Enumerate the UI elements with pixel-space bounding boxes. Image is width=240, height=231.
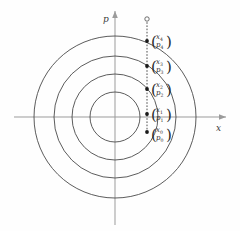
label-p2: p2 — [156, 89, 163, 98]
paren-right-p0: ) — [166, 126, 172, 144]
sample-point-p4 — [145, 39, 149, 43]
phase-space-plot: p x ( x4 — [0, 0, 240, 231]
label-p3: p3 — [156, 66, 163, 75]
label-p4: p4 — [156, 41, 163, 50]
paren-right-p4: ) — [166, 33, 172, 51]
point-label-p3: ( x3 p3 ) — [151, 58, 172, 76]
sample-point-p2 — [145, 87, 149, 91]
axes-group — [14, 11, 226, 225]
paren-right-p2: ) — [166, 81, 172, 99]
x-axis-arrow-icon — [219, 114, 226, 120]
sample-point-open-top — [145, 17, 149, 21]
point-label-p1: ( x1 p1 ) — [151, 106, 172, 124]
sample-point-p1 — [145, 112, 149, 116]
phase-space-figure: p x ( x4 — [0, 0, 240, 231]
x-axis-label: x — [216, 123, 221, 133]
sample-point-p0 — [145, 130, 149, 134]
label-p0: p0 — [156, 134, 163, 143]
p-axis-label: p — [103, 14, 109, 24]
point-label-p2: ( x2 p2 ) — [151, 81, 172, 99]
point-label-p0: ( x0 p0 ) — [151, 126, 172, 144]
paren-right-p1: ) — [166, 106, 172, 124]
p-axis-arrow-icon — [112, 11, 118, 18]
paren-right-p3: ) — [166, 58, 172, 76]
label-p1: p1 — [156, 114, 163, 123]
point-labels-group: ( x4 p4 ) ( x3 p3 ) — [151, 33, 172, 144]
sample-point-p3 — [145, 64, 149, 68]
point-label-p4: ( x4 p4 ) — [151, 33, 172, 51]
